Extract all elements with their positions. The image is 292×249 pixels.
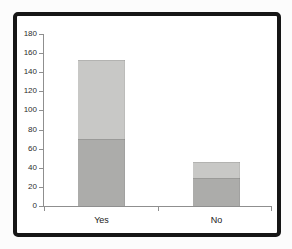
y-tick-label: 100 [24, 106, 37, 114]
bar-no-top-segment [193, 162, 240, 178]
x-tick-mark [271, 207, 272, 211]
y-tick-label: 20 [28, 183, 37, 191]
y-tick-mark [39, 149, 43, 150]
y-tick-mark [39, 187, 43, 188]
y-tick-mark [39, 53, 43, 54]
x-tick-mark [158, 207, 159, 211]
y-tick-label: 160 [24, 49, 37, 57]
y-tick-mark [39, 168, 43, 169]
x-tick-mark [44, 207, 45, 211]
y-tick-label: 180 [24, 30, 37, 38]
y-tick-mark [39, 72, 43, 73]
bar-no-bottom-segment [193, 178, 240, 206]
bar-no [193, 162, 240, 206]
y-tick-label: 40 [28, 164, 37, 172]
y-tick-mark [39, 130, 43, 131]
chart-frame: 180 160 140 120 100 80 [13, 12, 281, 237]
y-tick-label: 0 [33, 202, 37, 210]
y-tick-label: 140 [24, 68, 37, 76]
plot-area: 180 160 140 120 100 80 [43, 34, 272, 207]
y-tick-mark [39, 91, 43, 92]
y-tick-label: 120 [24, 87, 37, 95]
bar-yes-bottom-segment [78, 139, 125, 206]
y-tick-label: 80 [28, 126, 37, 134]
category-label-yes: Yes [94, 215, 109, 225]
y-tick-mark [39, 110, 43, 111]
bar-yes-top-segment [78, 60, 125, 139]
y-tick-mark [39, 206, 43, 207]
y-tick-label: 60 [28, 145, 37, 153]
bar-yes [78, 60, 125, 206]
category-label-no: No [211, 215, 223, 225]
y-tick-mark [39, 34, 43, 35]
